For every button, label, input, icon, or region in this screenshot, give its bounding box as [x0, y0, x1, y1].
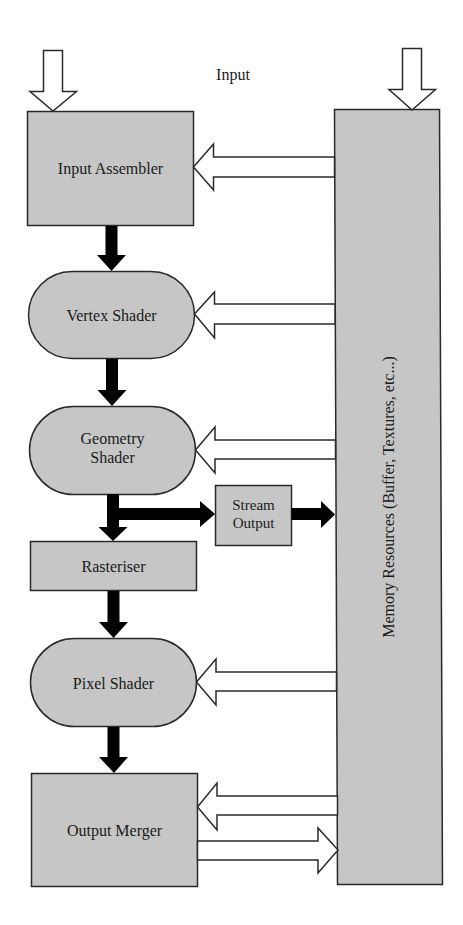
pixel-shader-box: [31, 639, 197, 727]
memory-to-vertex-shader-arrow: [195, 292, 336, 338]
pipeline-diagram: Input Input Assembler Vertex Shader Geom…: [0, 0, 463, 925]
memory-to-pixel-shader-arrow: [197, 659, 337, 705]
flow-arrow-gs-to-stream-output: [118, 501, 215, 527]
vertex-shader-box: [29, 272, 195, 359]
memory-to-geometry-shader-arrow: [196, 427, 336, 473]
memory-resources-label: Memory Resources (Buffer, Textures, etc.…: [380, 356, 398, 638]
flow-arrow-vs-to-gs: [98, 359, 127, 406]
geometry-shader-box: [30, 407, 196, 495]
flow-arrow-rasteriser-to-ps: [99, 591, 128, 638]
input-arrow-to-assembler: [30, 51, 77, 112]
output-merger-box: [32, 774, 198, 887]
input-arrow-to-memory: [389, 49, 436, 111]
memory-to-output-merger-arrow: [198, 783, 338, 830]
input-assembler-box: [28, 112, 194, 226]
rasteriser-box: [31, 542, 197, 591]
output-merger-to-memory-arrow: [198, 828, 339, 873]
memory-to-input-assembler-arrow: [194, 144, 335, 190]
flow-arrow-stream-output-to-memory: [292, 501, 336, 528]
flow-arrow-ps-to-om: [99, 727, 128, 773]
stream-output-box: [216, 486, 292, 546]
flow-arrow-ia-to-vs: [97, 226, 126, 271]
